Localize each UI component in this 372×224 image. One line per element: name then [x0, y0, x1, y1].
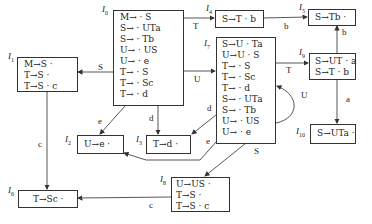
item: T→ · Sc [120, 78, 183, 89]
item: S→UT · a [315, 56, 355, 67]
item: U→ · US [120, 45, 183, 56]
item: T→S · [176, 190, 229, 201]
edge-label-i0-i1: S [98, 62, 103, 72]
state-label-i4: I4 [206, 3, 212, 15]
state-box-i1: M→S · T→S · T→S · c [17, 57, 78, 92]
state-box-i10: S→UTa · [310, 124, 356, 144]
item: T→ · S [222, 61, 275, 72]
edge-label-i0-i2: e [98, 116, 102, 126]
item: U→ · e [120, 56, 183, 67]
edge-label-i7-loop: U [301, 90, 308, 100]
item: S→ · Tb [222, 105, 275, 116]
item: S→UTa · [317, 128, 355, 139]
edge-label-i7-i9: T [286, 65, 292, 75]
item: U→ · US [222, 116, 275, 127]
edge-label-i9-i5: b [342, 27, 347, 37]
item: S→ · UTa [222, 94, 275, 105]
item: T→S · c [176, 201, 229, 212]
item: T→d · [153, 139, 190, 150]
item: T→ · S [120, 67, 183, 78]
item: U→e · [84, 139, 123, 150]
item: U→ · e [222, 127, 275, 138]
edge-label-i0-i3: d [149, 113, 154, 123]
state-label-i3: I3 [136, 134, 142, 146]
item: M→ · S [120, 12, 183, 23]
state-label-i6: I6 [8, 185, 14, 197]
state-box-i3: T→d · [146, 135, 191, 154]
item: U→US · [176, 179, 229, 190]
item: T→ · Sc [222, 72, 275, 83]
item: S→U · Ta [222, 39, 275, 50]
edge-label-i9-i10: a [346, 94, 350, 104]
item: T→S · [24, 70, 77, 81]
edge-label-i7-i2: e [206, 136, 210, 146]
state-box-i5: S→Tb · [308, 9, 356, 26]
item: U→U · S [222, 50, 275, 61]
state-label-i5: I5 [299, 2, 305, 14]
item: T→ · d [120, 89, 183, 100]
state-box-i6: T→Sc · [18, 190, 78, 208]
item: T→ · d [222, 83, 275, 94]
state-label-i0: I0 [102, 4, 108, 16]
item: S→ · Tb [120, 34, 183, 45]
state-box-i9: S→UT · a S→T · b [309, 53, 356, 80]
state-label-i1: I1 [8, 51, 14, 63]
item: S→ · UTa [120, 23, 183, 34]
item: M→S · [24, 59, 77, 70]
state-label-i8: I8 [160, 174, 166, 186]
edge-label-i7-i8: S [254, 146, 259, 156]
edge-label-i0-i7: U [194, 74, 201, 84]
item: T→Sc · [33, 194, 77, 205]
state-label-i7: I7 [204, 38, 210, 50]
edge-label-i7-i3: d [207, 103, 212, 113]
state-label-i10: I10 [296, 126, 305, 138]
edge-label-i4-i5: b [284, 21, 289, 31]
state-label-i2: I2 [65, 134, 71, 146]
state-label-i9: I9 [299, 47, 305, 59]
edge-label-i0-i4: T [193, 21, 199, 31]
edge-label-i1-i6: c [38, 139, 42, 149]
item: S→T · b [222, 14, 263, 25]
state-box-i4: S→T · b [215, 10, 264, 28]
edge-label-i8-i6: c [149, 200, 153, 210]
state-box-i2: U→e · [77, 135, 124, 154]
item: T→S · c [24, 81, 77, 92]
item: S→Tb · [315, 12, 355, 23]
state-box-i8: U→US · T→S · T→S · c [171, 177, 230, 212]
state-box-i0: M→ · S S→ · UTa S→ · Tb U→ · US U→ · e T… [113, 10, 184, 106]
state-box-i7: S→U · Ta U→U · S T→ · S T→ · Sc T→ · d S… [216, 37, 276, 144]
item: S→T · b [315, 67, 355, 78]
